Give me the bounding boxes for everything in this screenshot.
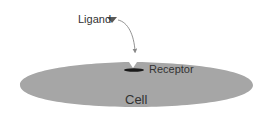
receptor-shape [124,68,144,72]
binding-arrow [118,20,135,51]
cell-label: Cell [125,93,147,106]
ligand-label: Ligand [78,14,111,25]
receptor-label: Receptor [149,64,194,75]
